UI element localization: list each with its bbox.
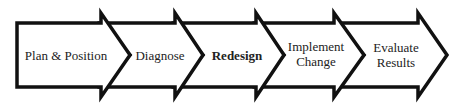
step-label-diagnose: Diagnose: [130, 45, 190, 65]
step-3-text: Redesign: [212, 48, 263, 63]
step-label-redesign: Redesign: [204, 45, 270, 65]
step-4-text-line2: Change: [296, 54, 336, 69]
step-label-implement-change: Implement Change: [280, 36, 352, 72]
step-4-text-line1: Implement: [288, 39, 344, 54]
step-1-text: Plan & Position: [25, 48, 107, 63]
step-5-text-line1: Evaluate: [373, 40, 418, 55]
step-2-text: Diagnose: [135, 48, 184, 63]
step-label-evaluate-results: Evaluate Results: [366, 37, 426, 73]
step-label-plan-position: Plan & Position: [20, 45, 112, 65]
step-5-text-line2: Results: [377, 55, 415, 70]
